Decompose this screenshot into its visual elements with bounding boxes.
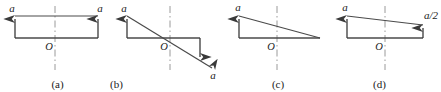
label-origin-d: O bbox=[375, 41, 383, 52]
label-origin-c: O bbox=[267, 41, 275, 52]
label-diagonal-vector-b: a bbox=[210, 69, 216, 81]
label-left-vector-a: a bbox=[9, 2, 15, 14]
caption-c: (c) bbox=[222, 78, 334, 90]
label-right-vector-d: a/2 bbox=[424, 9, 439, 21]
panel-b: a a O (b) bbox=[112, 0, 227, 92]
panel-c: a O (c) bbox=[222, 0, 334, 92]
taper-c bbox=[239, 16, 320, 38]
caption-d: (d) bbox=[324, 78, 435, 90]
vector-distribution-figure: a a O (a) bbox=[0, 0, 441, 92]
label-origin-a: O bbox=[45, 41, 53, 52]
label-left-vector-b: a bbox=[121, 2, 127, 14]
panel-d: a a/2 O (d) bbox=[330, 0, 441, 92]
label-origin-b: O bbox=[160, 41, 168, 52]
label-left-vector-c: a bbox=[235, 1, 241, 13]
caption-b: (b) bbox=[59, 78, 174, 90]
label-right-vector-a: a bbox=[97, 2, 103, 14]
label-left-vector-d: a bbox=[342, 1, 348, 13]
